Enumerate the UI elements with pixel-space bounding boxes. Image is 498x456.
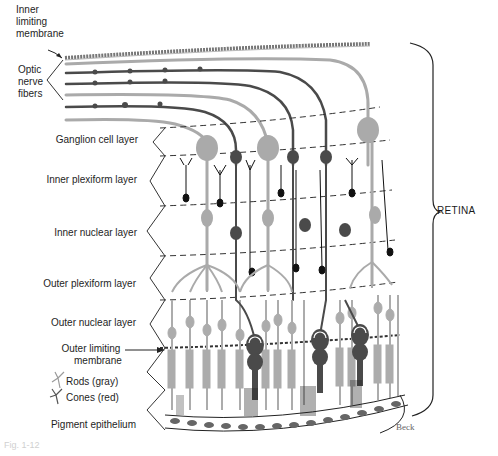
label-line: membrane xyxy=(16,28,64,40)
label-inner-limiting-membrane: Inner limiting membrane xyxy=(16,4,64,40)
figure-caption: Fig. 1-12 xyxy=(4,440,40,450)
rod-icon xyxy=(52,372,64,388)
inner-limiting-membrane xyxy=(65,44,370,60)
label-line: nerve xyxy=(18,76,43,88)
label-optic-nerve-fibers: Optic nerve fibers xyxy=(18,64,43,100)
layer-boundaries xyxy=(160,107,400,348)
legend-cones: Cones (red) xyxy=(66,392,119,404)
retina-label: RETINA xyxy=(437,205,475,216)
label-line: limiting xyxy=(16,16,64,28)
label-line: fibers xyxy=(18,88,43,100)
label-inner-nuclear-layer: Inner nuclear layer xyxy=(54,227,137,239)
pigment-epithelium xyxy=(165,380,408,433)
legend-rods: Rods (gray) xyxy=(66,376,118,388)
artist-credit: Beck xyxy=(396,422,415,432)
label-line: Optic xyxy=(18,64,43,76)
label-outer-nuclear-layer: Outer nuclear layer xyxy=(51,317,136,329)
retina-brace xyxy=(410,43,440,416)
label-pigment-epithelium: Pigment epithelium xyxy=(51,419,136,431)
label-outer-plexiform-layer: Outer plexiform layer xyxy=(43,278,136,290)
optic-fibers-bracket xyxy=(47,60,63,100)
label-line: Outer limiting xyxy=(60,343,122,355)
label-inner-plexiform-layer: Inner plexiform layer xyxy=(46,174,137,186)
layer-zigzag xyxy=(147,128,165,430)
label-line: membrane xyxy=(60,355,122,367)
cone-icon xyxy=(50,389,62,404)
label-line: Inner xyxy=(16,4,64,16)
label-ganglion-cell-layer: Ganglion cell layer xyxy=(56,134,138,146)
outer-plexiform-branches xyxy=(172,262,392,292)
label-outer-limiting-membrane: Outer limiting membrane xyxy=(60,343,122,367)
